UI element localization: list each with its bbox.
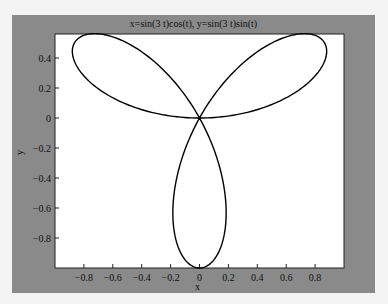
y-tick-label: −0.4 [33, 173, 51, 184]
x-tick-label: −0.6 [104, 272, 122, 283]
x-tick-label: −0.8 [75, 272, 93, 283]
y-tick-label: 0 [46, 113, 51, 124]
x-tick-label: 0.8 [309, 272, 322, 283]
x-tick-label: 0.4 [251, 272, 264, 283]
x-tick-label: 0 [197, 272, 202, 283]
x-tick-label: 0.2 [222, 272, 235, 283]
x-tick-label: 0.6 [280, 272, 293, 283]
y-tick-label: 0.4 [39, 53, 52, 64]
y-tick-label: −0.8 [33, 233, 51, 244]
x-tick-label: −0.2 [162, 272, 180, 283]
axes-background [55, 34, 344, 268]
y-tick-label: −0.2 [33, 143, 51, 154]
plot-area: −0.8−0.6−0.4−0.200.20.40.60.8 0.40.20−0.… [0, 0, 388, 304]
x-tick-label: −0.4 [133, 272, 151, 283]
y-tick-label: −0.6 [33, 203, 51, 214]
y-tick-label: 0.2 [39, 83, 52, 94]
